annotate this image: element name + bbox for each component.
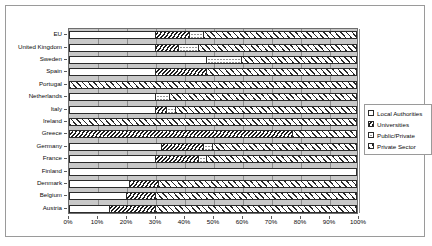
bar-row	[69, 203, 357, 215]
bar-segment[interactable]	[70, 181, 130, 187]
bar-segment[interactable]	[176, 107, 356, 113]
y-axis-label: Sweden	[40, 55, 62, 63]
bar-segment[interactable]	[70, 82, 356, 88]
bar-segment[interactable]	[130, 181, 159, 187]
bar-segment[interactable]	[156, 206, 356, 212]
bar-segment[interactable]	[156, 156, 199, 162]
legend-swatch-icon	[368, 132, 374, 138]
y-axis-label: France	[43, 154, 62, 162]
bar-segment[interactable]	[70, 45, 156, 51]
stacked-bar[interactable]	[69, 118, 357, 126]
bar-segment[interactable]	[70, 169, 356, 175]
bar-segment[interactable]	[170, 94, 356, 100]
y-axis-label: EU	[53, 30, 62, 38]
y-axis-label: Spain	[46, 67, 62, 75]
bar-segment[interactable]	[207, 156, 356, 162]
y-axis-tick	[64, 133, 67, 134]
bar-segment[interactable]	[156, 94, 170, 100]
y-axis-tick	[64, 208, 67, 209]
bar-row	[69, 66, 357, 78]
bar-segment[interactable]	[127, 193, 156, 199]
bar-segment[interactable]	[156, 69, 207, 75]
stacked-bar[interactable]	[69, 192, 357, 200]
bar-segment[interactable]	[156, 107, 167, 113]
stacked-bar[interactable]	[69, 93, 357, 101]
y-axis-tick	[64, 84, 67, 85]
stacked-bar[interactable]	[69, 44, 357, 52]
chart-frame: EUUnited KingdomSwedenSpainPortugalNethe…	[5, 5, 425, 237]
bar-segment[interactable]	[156, 45, 179, 51]
x-axis-label: 90%	[323, 218, 335, 225]
stacked-bar[interactable]	[69, 130, 357, 138]
bar-segment[interactable]	[70, 119, 356, 125]
bar-row	[69, 103, 357, 115]
bar-segment[interactable]	[70, 206, 110, 212]
bar-segment[interactable]	[70, 69, 156, 75]
y-axis-tick	[64, 96, 67, 97]
stacked-bar[interactable]	[69, 56, 357, 64]
bar-segment[interactable]	[70, 193, 127, 199]
stacked-bar[interactable]	[69, 180, 357, 188]
bar-row	[69, 54, 357, 66]
y-axis-label: Italy	[51, 105, 62, 113]
bar-segment[interactable]	[199, 45, 356, 51]
y-axis-label: Belgium	[40, 191, 62, 199]
y-axis-label: Germany	[37, 142, 62, 150]
bar-segment[interactable]	[167, 107, 176, 113]
y-axis-tick	[64, 171, 67, 172]
bar-segment[interactable]	[204, 32, 356, 38]
legend-item[interactable]: Universities	[368, 119, 428, 129]
x-axis-label: 70%	[265, 218, 277, 225]
bar-segment[interactable]	[162, 144, 205, 150]
bar-segment[interactable]	[199, 156, 208, 162]
stacked-bar[interactable]	[69, 168, 357, 176]
bar-segment[interactable]	[70, 32, 156, 38]
bar-segment[interactable]	[213, 144, 356, 150]
stacked-bar[interactable]	[69, 205, 357, 213]
bar-rows	[69, 29, 357, 213]
x-axis-label: 100%	[350, 218, 366, 225]
bar-segment[interactable]	[156, 32, 190, 38]
stacked-bar[interactable]	[69, 81, 357, 89]
bar-segment[interactable]	[204, 144, 213, 150]
bar-segment[interactable]	[207, 69, 356, 75]
bar-segment[interactable]	[70, 107, 156, 113]
legend-item[interactable]: Local Authorities	[368, 108, 428, 118]
chart-legend: Local AuthoritiesUniversitiesPublic/Priv…	[364, 104, 432, 155]
stacked-bar[interactable]	[69, 155, 357, 163]
bar-segment[interactable]	[179, 45, 199, 51]
bar-segment[interactable]	[293, 131, 356, 137]
y-axis-tick	[64, 183, 67, 184]
y-axis-tick	[64, 158, 67, 159]
y-axis-label: Netherlands	[29, 92, 62, 100]
bar-row	[69, 141, 357, 153]
bar-segment[interactable]	[70, 94, 156, 100]
y-axis-label: United Kingdom	[18, 43, 62, 51]
legend-item[interactable]: Private Sector	[368, 141, 428, 151]
y-axis-tick	[64, 146, 67, 147]
plot-area	[68, 28, 358, 214]
bar-segment[interactable]	[70, 144, 162, 150]
stacked-bar[interactable]	[69, 106, 357, 114]
bar-segment[interactable]	[190, 32, 204, 38]
bar-segment[interactable]	[207, 57, 241, 63]
bar-segment[interactable]	[242, 57, 356, 63]
y-axis-tick	[64, 195, 67, 196]
bar-segment[interactable]	[70, 156, 156, 162]
stacked-bar[interactable]	[69, 143, 357, 151]
y-axis-label: Ireland	[43, 117, 62, 125]
legend-item[interactable]: Public/Private	[368, 130, 428, 140]
bar-segment[interactable]	[156, 193, 356, 199]
x-axis-label: 80%	[294, 218, 306, 225]
x-axis-label: 20%	[120, 218, 132, 225]
stacked-bar[interactable]	[69, 68, 357, 76]
bar-segment[interactable]	[159, 181, 356, 187]
bar-segment[interactable]	[110, 206, 156, 212]
bar-segment[interactable]	[70, 131, 293, 137]
y-axis-tick	[64, 59, 67, 60]
y-axis-label: Finland	[42, 167, 62, 175]
bar-row	[69, 29, 357, 41]
legend-label: Universities	[377, 121, 409, 128]
bar-segment[interactable]	[70, 57, 207, 63]
stacked-bar[interactable]	[69, 31, 357, 39]
